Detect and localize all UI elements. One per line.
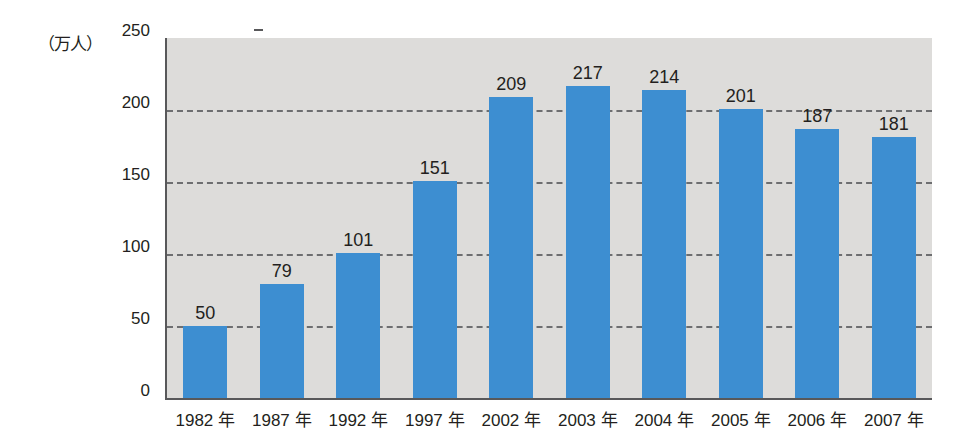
- x-axis-tick-label: 2007 年: [856, 406, 933, 431]
- bar[interactable]: 217: [566, 86, 610, 398]
- bar-value-label: 201: [726, 87, 756, 105]
- y-axis-tick-mark: [254, 29, 263, 31]
- bar-value-label: 217: [573, 64, 603, 82]
- y-axis-tick-label: 250: [98, 22, 150, 39]
- x-axis-tick-label: 2006 年: [779, 406, 856, 431]
- y-axis-tick-label: 0: [98, 382, 150, 399]
- bar-series: 5079101151209217214201187181: [167, 38, 932, 398]
- bar[interactable]: 50: [183, 326, 227, 398]
- bar-slot: 151: [397, 38, 474, 398]
- bar-value-label: 214: [649, 68, 679, 86]
- x-axis-tick-label: 2003 年: [550, 406, 627, 431]
- bar-value-label: 50: [195, 304, 215, 322]
- bar-value-label: 187: [802, 107, 832, 125]
- x-axis-tick-label-group: 1982 年1987 年1992 年1997 年2002 年2003 年2004…: [167, 406, 932, 431]
- x-axis-tick-label: 1992 年: [320, 406, 397, 431]
- x-axis-tick-label: 2004 年: [626, 406, 703, 431]
- bar-slot: 187: [779, 38, 856, 398]
- bar[interactable]: 209: [489, 97, 533, 398]
- bar-value-label: 209: [496, 75, 526, 93]
- y-axis-tick-label-group: 050100150200250: [98, 30, 150, 402]
- x-axis-tick-label: 1982 年: [167, 406, 244, 431]
- x-axis-tick-label: 1997 年: [397, 406, 474, 431]
- y-axis-tick-label: 150: [98, 166, 150, 183]
- x-axis-tick-label: 1987 年: [244, 406, 321, 431]
- bar-slot: 201: [703, 38, 780, 398]
- bar-slot: 50: [167, 38, 244, 398]
- bar[interactable]: 187: [795, 129, 839, 398]
- bar[interactable]: 214: [642, 90, 686, 398]
- y-axis-tick-label: 200: [98, 94, 150, 111]
- bar-chart: （万人） 050100150200250 5079101151209217214…: [0, 0, 974, 440]
- bar-value-label: 151: [420, 159, 450, 177]
- y-axis-unit-label: （万人）: [38, 30, 102, 55]
- bar-slot: 181: [856, 38, 933, 398]
- y-axis-tick-label: 100: [98, 238, 150, 255]
- x-axis-tick-label: 2005 年: [703, 406, 780, 431]
- bar-value-label: 101: [343, 231, 373, 249]
- bar-slot: 101: [320, 38, 397, 398]
- bar[interactable]: 101: [336, 253, 380, 398]
- bar-slot: 217: [550, 38, 627, 398]
- bar-value-label: 79: [272, 262, 292, 280]
- plot-area: 5079101151209217214201187181: [165, 38, 932, 400]
- bar[interactable]: 79: [260, 284, 304, 398]
- bar[interactable]: 151: [413, 181, 457, 398]
- bar[interactable]: 181: [872, 137, 916, 398]
- y-axis-tick-label: 50: [98, 310, 150, 327]
- bar-slot: 214: [626, 38, 703, 398]
- bar-slot: 209: [473, 38, 550, 398]
- bar[interactable]: 201: [719, 109, 763, 398]
- bar-slot: 79: [244, 38, 321, 398]
- x-axis-tick-label: 2002 年: [473, 406, 550, 431]
- bar-value-label: 181: [879, 115, 909, 133]
